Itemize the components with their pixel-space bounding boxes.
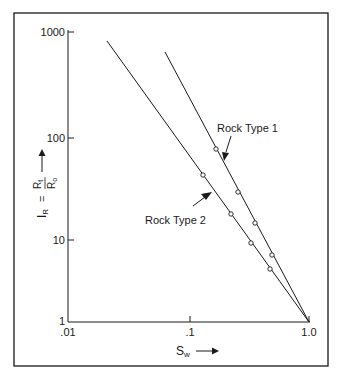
- chart: 1000 100 10 1 .01 .1 1.0 Sw IR = Rt Ro: [0, 0, 342, 378]
- rock-type-1-line: [165, 52, 309, 322]
- svg-text:=: =: [36, 196, 48, 202]
- rock-type-1-label: Rock Type 1: [217, 122, 278, 134]
- svg-text:IR: IR: [35, 209, 50, 218]
- x-tick-label-001: .01: [60, 326, 75, 338]
- chart-frame: [14, 13, 328, 366]
- y-axis-label: IR = Rt Ro: [32, 149, 58, 218]
- x-axis-arrow-icon: [196, 348, 219, 355]
- rock-type-2-line: [107, 41, 309, 322]
- svg-text:Rt: Rt: [32, 180, 44, 189]
- svg-text:Ro: Ro: [46, 178, 58, 189]
- x-axis-label: Sw: [176, 344, 190, 359]
- rock-type-1-arrow-icon: [222, 136, 231, 161]
- y-ticks: [68, 32, 74, 240]
- x-tick-label-1: 1.0: [301, 326, 316, 338]
- y-tick-label-1000: 1000: [41, 26, 65, 38]
- y-tick-label-100: 100: [47, 132, 65, 144]
- y-tick-label-10: 10: [53, 234, 65, 246]
- x-tick-label-01: .1: [185, 326, 194, 338]
- rock-type-2-arrow-icon: [193, 192, 212, 206]
- rock-type-2-label: Rock Type 2: [145, 214, 206, 226]
